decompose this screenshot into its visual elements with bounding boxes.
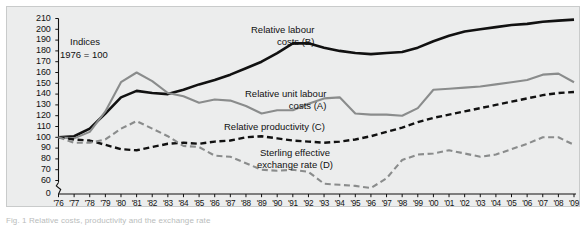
y-axis-break-label: 0 — [29, 189, 51, 198]
y-axis-tick-label: 130 — [29, 100, 51, 109]
figure-caption: Fig. 1 Relative costs, productivity and … — [6, 216, 210, 225]
x-axis-tick-label: '09 — [563, 199, 585, 208]
series-label-d-line-1: Sterling effective — [257, 147, 333, 159]
series-label-sterling-effective-exchange-rate: Sterling effective exchange rate (D) — [257, 147, 333, 171]
indices-line-1: Indices — [60, 36, 108, 49]
y-axis-tick-label: 180 — [29, 46, 51, 55]
y-axis-tick-label: 140 — [29, 89, 51, 98]
y-axis-tick-label: 200 — [29, 25, 51, 34]
y-axis-tick-label: 160 — [29, 68, 51, 77]
y-axis-tick-label: 80 — [29, 154, 51, 163]
y-axis-tick-label: 210 — [29, 14, 51, 23]
series-label-d-line-2: exchange rate (D) — [257, 159, 333, 171]
series-line-b — [59, 20, 575, 138]
series-label-relative-labour-costs: Relative labour costs (B) — [251, 24, 314, 48]
y-axis-tick-label: 60 — [29, 176, 51, 185]
y-axis-tick-label: 190 — [29, 35, 51, 44]
indices-annotation: Indices 1976 = 100 — [60, 36, 108, 61]
series-label-a-line-2: costs (A) — [245, 100, 326, 112]
series-label-c-line-1: Relative productivity (C) — [224, 121, 325, 133]
series-label-relative-productivity: Relative productivity (C) — [224, 121, 325, 133]
series-label-b-line-2: costs (B) — [251, 36, 314, 48]
indices-line-2: 1976 = 100 — [60, 49, 108, 62]
y-axis-tick-label: 170 — [29, 57, 51, 66]
y-axis-tick-label: 150 — [29, 79, 51, 88]
series-label-relative-unit-labour-costs: Relative unit labour costs (A) — [245, 88, 326, 112]
y-axis-tick-label: 100 — [29, 133, 51, 142]
y-axis-tick-label: 90 — [29, 143, 51, 152]
y-axis-tick-label: 70 — [29, 165, 51, 174]
y-axis-tick-label: 110 — [29, 122, 51, 131]
figure-container: 2102001901801701601501401301201101009080… — [0, 0, 586, 231]
series-label-a-line-1: Relative unit labour — [245, 88, 326, 100]
y-axis-tick-label: 120 — [29, 111, 51, 120]
series-label-b-line-1: Relative labour — [251, 24, 314, 36]
